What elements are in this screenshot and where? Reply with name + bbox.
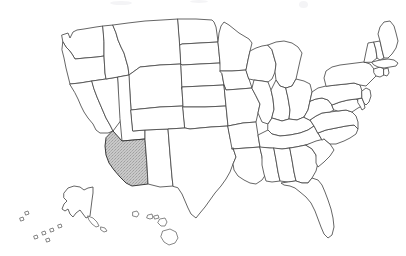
aleutian-island-5 <box>25 211 29 215</box>
alaska-panhandle <box>88 216 99 227</box>
us-map-graphic[interactable] <box>0 0 406 256</box>
state-south-dakota[interactable] <box>180 42 220 65</box>
alaska-inset-group[interactable] <box>20 186 107 242</box>
aleutian-island-6 <box>20 217 24 221</box>
aleutian-island-1 <box>58 224 62 228</box>
hawaii-island-hawaii <box>161 229 178 245</box>
hawaii-inset-group[interactable] <box>133 211 178 245</box>
state-connecticut[interactable] <box>374 67 384 77</box>
state-north-dakota[interactable] <box>178 19 218 45</box>
state-wisconsin[interactable] <box>246 45 276 82</box>
state-kansas[interactable] <box>182 85 226 107</box>
hawaii-island-oahu <box>147 214 153 219</box>
state-rhode-island[interactable] <box>384 68 389 76</box>
aleutian-island-2 <box>50 228 54 232</box>
aleutian-island-3 <box>42 231 46 235</box>
state-florida[interactable] <box>281 178 334 238</box>
hawaii-island-kauai <box>133 211 139 217</box>
contiguous-states-group <box>62 19 398 238</box>
state-new-jersey[interactable] <box>362 88 371 105</box>
state-oklahoma[interactable] <box>183 106 228 129</box>
state-wyoming[interactable] <box>129 64 183 110</box>
aleutian-island-8 <box>46 238 50 242</box>
state-texas[interactable] <box>168 126 236 218</box>
state-alaska[interactable] <box>62 186 93 218</box>
aleutian-island-4 <box>34 235 38 239</box>
state-arkansas[interactable] <box>228 122 260 149</box>
aleutian-island-7 <box>101 227 107 232</box>
us-map-figure <box>0 0 406 256</box>
state-colorado[interactable] <box>131 106 185 131</box>
hawaii-island-maui <box>158 218 167 226</box>
state-new-york[interactable] <box>324 62 378 86</box>
hawaii-island-molokai <box>154 215 159 219</box>
state-massachusetts[interactable] <box>372 59 398 68</box>
